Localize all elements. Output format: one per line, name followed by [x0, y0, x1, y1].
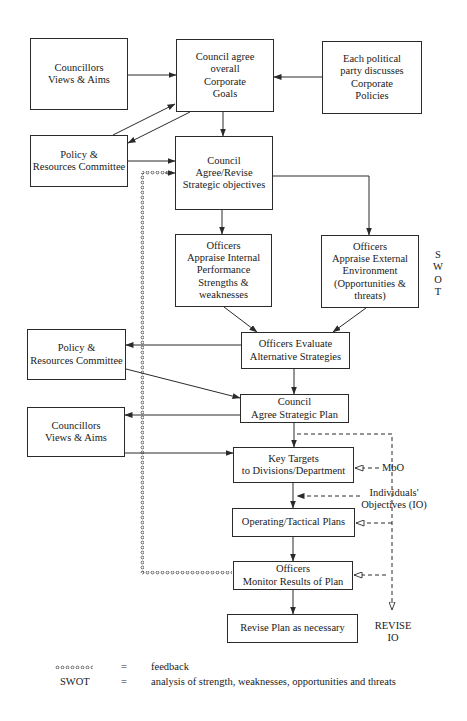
management-flow-diagram: Councillors Views & Aims Council agree o… [0, 0, 467, 721]
box-appraise-external: Officers Appraise External Environment (… [321, 235, 419, 308]
legend-feedback-symbol [55, 665, 93, 669]
box-policy-resources-1: Policy & Resources Committee [30, 135, 128, 187]
legend-swot-symbol: SWOT [60, 676, 90, 687]
arrow-external-to-evaluate [333, 308, 366, 332]
box-revise-plan: Revise Plan as necessary [227, 614, 358, 643]
box-appraise-internal: Officers Appraise Internal Performance S… [175, 234, 272, 307]
arrow-internal-to-evaluate [224, 307, 257, 332]
individuals-objectives-label: Individuals' Objectives (IO) [358, 487, 430, 512]
box-monitor-results: Officers Monitor Results of Plan [233, 561, 353, 590]
revise-io-label: REVISE IO [370, 620, 416, 645]
box-policy-resources-2: Policy & Resources Committee [27, 329, 126, 380]
arrow-objectives-to-external [273, 176, 369, 235]
box-key-targets: Key Targets to Divisions/Department [233, 447, 354, 483]
box-strategic-plan: Council Agree Strategic Plan [240, 394, 349, 423]
box-corporate-goals: Council agree overall Corporate Goals [176, 39, 274, 112]
swot-vertical-label: S W O T [432, 249, 444, 298]
feedback-loop [140, 171, 233, 575]
legend-feedback-equals: = [121, 661, 127, 672]
mbo-label: MbO [381, 462, 405, 474]
legend-swot-meaning: analysis of strength, weaknesses, opport… [151, 676, 396, 687]
box-strategic-objectives: Council Agree/Revise Strategic objective… [175, 136, 273, 210]
box-political-party: Each political party discusses Corporate… [322, 41, 422, 114]
box-councillors-views-2: Councillors Views & Aims [27, 407, 125, 457]
box-councillors-views-1: Councillors Views & Aims [30, 38, 128, 110]
legend-swot-equals: = [121, 676, 127, 687]
box-evaluate-strategies: Officers Evaluate Alternative Strategies [241, 332, 350, 369]
box-operating-plans: Operating/Tactical Plans [232, 508, 355, 537]
legend-feedback-meaning: feedback [151, 661, 189, 672]
